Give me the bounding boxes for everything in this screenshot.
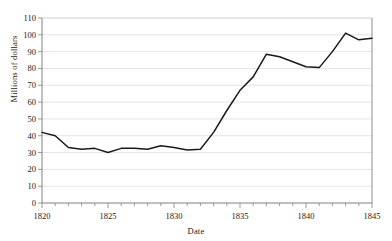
gridlines-group [42, 18, 372, 186]
x-tick-label: 1825 [100, 211, 117, 221]
y-tick-label: 90 [28, 47, 37, 57]
x-tick-label: 1845 [364, 211, 381, 221]
x-tick-label: 1840 [298, 211, 315, 221]
y-tick-label: 80 [28, 63, 37, 73]
y-tick-label: 50 [28, 114, 37, 124]
y-tick-group: 0102030405060708090100110 [23, 13, 42, 208]
y-tick-label: 10 [28, 181, 37, 191]
x-tick-group: 182018251830183518401845 [34, 203, 381, 221]
y-tick-label: 40 [28, 131, 37, 141]
x-tick-label: 1820 [34, 211, 51, 221]
line-chart-plot: 0102030405060708090100110 18201825183018… [0, 0, 392, 241]
series-line-millions-of-dollars [42, 33, 372, 152]
y-tick-label: 100 [23, 30, 36, 40]
y-tick-label: 20 [28, 164, 37, 174]
y-tick-label: 70 [28, 80, 37, 90]
y-tick-label: 110 [24, 13, 36, 23]
chart-container: Millions of dollars Date 010203040506070… [0, 0, 392, 241]
x-tick-label: 1830 [166, 211, 183, 221]
y-tick-label: 30 [28, 148, 37, 158]
x-tick-label: 1835 [232, 211, 249, 221]
y-tick-label: 0 [32, 198, 36, 208]
y-tick-label: 60 [28, 97, 37, 107]
plot-frame [42, 18, 372, 203]
data-series-line [42, 33, 372, 152]
